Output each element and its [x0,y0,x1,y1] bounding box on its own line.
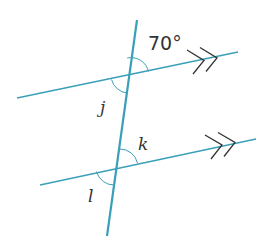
angle-arc-k [120,149,138,163]
angle-arc-l [97,172,115,186]
angle-label-k: k [138,136,148,153]
angle-label-j: j [100,99,105,116]
parallel-arrow-icon-lower [205,133,235,160]
transversal-line [107,20,137,236]
angle-label-70: 70° [148,34,182,53]
angle-arc-j [112,80,128,94]
parallel-arrow-icon-upper [187,48,217,75]
parallel-lines-diagram [0,0,270,239]
angle-label-l: l [88,188,93,205]
